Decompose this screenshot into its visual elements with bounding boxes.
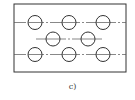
figure-caption: c) bbox=[0, 82, 135, 91]
figure: c) bbox=[0, 0, 135, 100]
